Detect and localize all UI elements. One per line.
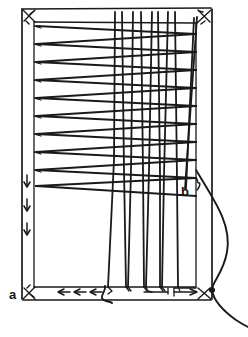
down-arrows-left-rail — [24, 175, 30, 235]
warp-threads — [108, 12, 178, 287]
left-arrow-icon-3 — [90, 289, 102, 295]
warp-bottom-loops — [108, 287, 180, 294]
label-a: a — [9, 287, 17, 302]
left-arrows-bottom-rail — [58, 289, 102, 295]
down-arrow-icon-3 — [24, 223, 30, 235]
top-left-x-icon — [23, 10, 35, 24]
bottom-left-x-icon — [23, 285, 35, 299]
thread-knot-bottom-right — [209, 287, 214, 292]
weft-threads — [36, 26, 196, 196]
top-right-x-icon — [197, 10, 211, 24]
left-arrow-icon-2 — [74, 289, 86, 295]
loose-thread-tail — [196, 170, 248, 327]
right-arrow-bottom-rail — [174, 288, 197, 296]
down-arrow-icon-2 — [24, 199, 30, 211]
left-arrow-icon-1 — [58, 289, 70, 295]
weaving-frame-figure: a b — [0, 0, 248, 337]
down-arrow-icon-1 — [24, 175, 30, 187]
label-b: b — [181, 184, 189, 199]
figure-canvas: a b — [0, 0, 248, 337]
tensioning-diagonal-thread — [185, 17, 197, 189]
